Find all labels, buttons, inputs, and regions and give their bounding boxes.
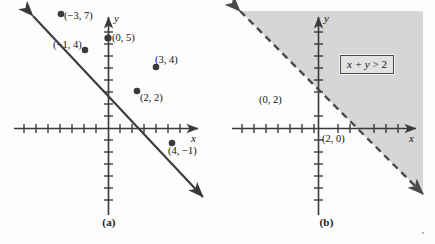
panel-b-caption: (b) [218,216,435,228]
panel-a-plot [0,0,218,244]
inequality-label-box: x + y > 2 [340,55,394,74]
data-point [104,34,111,41]
inequality-operator: > [370,58,382,70]
panel-a-x-axis-label: x [191,133,196,144]
panel-a-caption: (a) [0,216,218,228]
inequality-rhs: 2 [381,58,387,70]
panel-b-x-intercept-label: (2, 0) [322,134,345,145]
point-label-neg3-7: (−3, 7) [64,11,93,22]
point-label-3-4: (3, 4) [155,55,178,66]
panel-b-y-axis-label: y [324,13,329,24]
panel-b-plot [218,0,435,244]
panel-a-scatter-with-line: (−3, 7) (−1, 4) (0, 5) (3, 4) (2, 2) (4,… [0,0,218,244]
panel-a-y-axis [104,17,113,215]
inequality-lhs: x + y [347,58,370,70]
figure-container: (−3, 7) (−1, 4) (0, 5) (3, 4) (2, 2) (4,… [0,0,435,244]
data-point [82,47,89,54]
point-label-4-neg1: (4, −1) [168,146,197,157]
point-label-2-2: (2, 2) [140,93,163,104]
scan-speck [422,232,424,234]
point-label-neg1-4: (−1, 4) [53,40,82,51]
panel-a-y-axis-label: y [114,13,119,24]
panel-b-y-intercept-label: (0, 2) [259,95,282,106]
panel-b-x-axis-label: x [409,133,414,144]
panel-b-inequality-region: (0, 2) (2, 0) x y x + y > 2 (b) [218,0,435,244]
panel-a-x-axis [14,124,198,133]
point-label-0-5: (0, 5) [112,33,135,44]
